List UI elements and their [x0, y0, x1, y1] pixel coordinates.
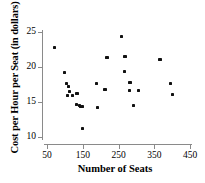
- data-point: [67, 85, 70, 88]
- y-axis-line: [42, 30, 43, 140]
- x-tick-label-150: 150: [68, 150, 98, 160]
- data-point: [75, 92, 78, 95]
- x-tick-label-450: 450: [175, 150, 205, 160]
- y-tick-label-wrap: 25: [12, 26, 36, 37]
- x-axis-label: Number of Seats: [30, 163, 200, 174]
- y-tick-20: [38, 67, 42, 68]
- data-point: [66, 94, 69, 97]
- data-point: [128, 89, 131, 92]
- data-point: [120, 35, 123, 38]
- data-point: [79, 105, 82, 108]
- y-tick-label-20: 20: [14, 61, 36, 71]
- data-point: [137, 89, 140, 92]
- y-tick-label-wrap: 15: [12, 96, 36, 107]
- data-point: [123, 55, 126, 58]
- y-tick-label-10: 10: [14, 131, 36, 141]
- data-point: [128, 81, 131, 84]
- data-point: [132, 104, 135, 107]
- y-tick-25: [38, 32, 42, 33]
- scatter-chart: Cost per Hour per Seat (in dollars) Numb…: [0, 0, 205, 183]
- x-tick-label-50: 50: [32, 150, 62, 160]
- data-point: [68, 90, 71, 93]
- data-point: [103, 88, 106, 91]
- data-point: [95, 82, 98, 85]
- y-tick-label-wrap: 20: [12, 61, 36, 72]
- data-point: [105, 56, 108, 59]
- y-tick-label-wrap: 10: [12, 131, 36, 142]
- y-tick-label-15: 15: [14, 96, 36, 106]
- x-tick-450: [190, 145, 191, 149]
- x-tick-50: [47, 145, 48, 149]
- data-point: [158, 58, 161, 61]
- y-tick-label-25: 25: [14, 26, 36, 36]
- data-point: [71, 94, 74, 97]
- data-point: [65, 82, 68, 85]
- x-tick-label-250: 250: [104, 150, 134, 160]
- x-tick-150: [83, 145, 84, 149]
- data-point: [171, 93, 174, 96]
- data-point: [53, 46, 56, 49]
- data-point: [78, 104, 81, 107]
- data-point: [75, 103, 78, 106]
- y-tick-15: [38, 102, 42, 103]
- data-point: [63, 71, 66, 74]
- x-tick-label-350: 350: [139, 150, 169, 160]
- y-tick-10: [38, 137, 42, 138]
- x-tick-250: [119, 145, 120, 149]
- data-point: [96, 106, 99, 109]
- data-point: [123, 70, 126, 73]
- data-point: [81, 127, 84, 130]
- data-point: [169, 82, 172, 85]
- x-tick-350: [154, 145, 155, 149]
- data-point: [81, 105, 84, 108]
